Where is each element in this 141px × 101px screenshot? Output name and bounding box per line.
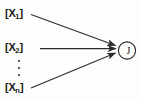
node-edge-diagram: [X1] [X2] [Xn] J: [0, 0, 141, 101]
input-x2-subscript: 2: [15, 46, 19, 55]
input-node-x2: [X2]: [5, 42, 23, 53]
input-xn-subscript: n: [15, 86, 19, 95]
input-node-x1: [X1]: [5, 8, 23, 19]
input-x2-bracket-close: ]: [20, 41, 23, 53]
ellipsis-dot: [18, 60, 20, 62]
edge-xn-to-j: [31, 53, 116, 88]
vertical-ellipsis-icon: [16, 60, 22, 78]
ellipsis-dot: [18, 74, 20, 76]
input-xn-bracket-close: ]: [20, 81, 23, 93]
input-x1-subscript: 1: [15, 12, 19, 21]
ellipsis-dot: [18, 67, 20, 69]
output-node-label: J: [123, 45, 135, 56]
input-node-xn: [Xn]: [5, 82, 23, 93]
input-x1-bracket-close: ]: [20, 7, 23, 19]
edge-x1-to-j: [31, 15, 116, 46]
